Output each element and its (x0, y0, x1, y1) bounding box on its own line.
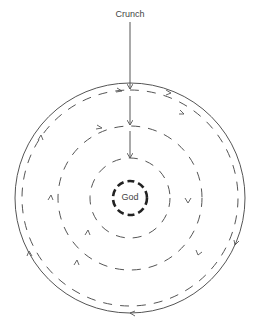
crunch-diagram (0, 0, 257, 335)
god-label: God (110, 192, 150, 202)
crunch-label: Crunch (105, 9, 155, 19)
